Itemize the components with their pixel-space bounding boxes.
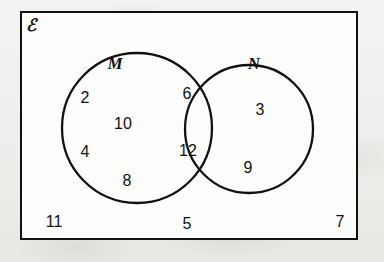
element-4-m-only: 4	[81, 144, 90, 160]
element-7-outside: 7	[336, 214, 345, 230]
element-2-m-only: 2	[81, 90, 90, 106]
element-10-m-only: 10	[114, 116, 132, 132]
element-6-intersection: 6	[183, 86, 192, 102]
universal-set-rectangle	[20, 11, 358, 240]
venn-diagram-page: ℰ MN 21048612391157	[0, 0, 384, 262]
element-5-outside: 5	[183, 216, 192, 232]
element-8-m-only: 8	[123, 173, 132, 189]
element-11-outside: 11	[46, 214, 63, 230]
universal-set-symbol: ℰ	[26, 17, 36, 34]
element-3-n-only: 3	[256, 102, 265, 118]
element-9-n-only: 9	[244, 160, 253, 176]
element-12-intersection: 12	[179, 143, 197, 159]
set-label-n: N	[248, 55, 260, 72]
set-label-m: M	[107, 55, 122, 72]
